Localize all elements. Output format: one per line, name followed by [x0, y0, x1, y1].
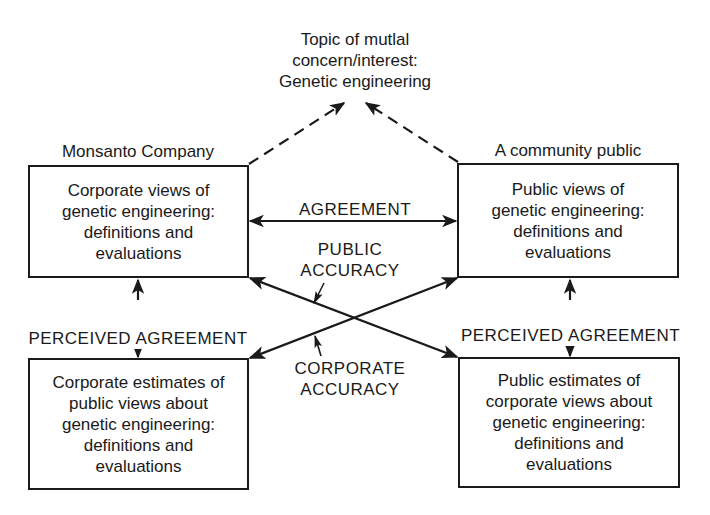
perceived-agreement-right-text: PERCEIVED AGREEMENT: [461, 326, 680, 345]
topic-label: Topic of mutlal concern/interest: Geneti…: [255, 29, 455, 92]
public-accuracy-label: PUBLIC ACCURACY: [275, 239, 425, 281]
perceived-agreement-left-label: PERCEIVED AGREEMENT: [18, 307, 258, 349]
corporate-estimates-box: Corporate estimates of public views abou…: [28, 358, 249, 490]
perceived-agreement-left-text: PERCEIVED AGREEMENT: [28, 329, 247, 348]
dashed-arrow-right-to-topic: [366, 103, 458, 162]
corporate-views-text: Corporate views of genetic engineering: …: [62, 180, 215, 264]
corporate-accuracy-pointer: [315, 336, 321, 356]
community-public-label: A community public: [458, 140, 678, 161]
agreement-label: AGREEMENT: [280, 199, 430, 220]
monsanto-company-label: Monsanto Company: [28, 141, 248, 162]
public-views-box: Public views of genetic engineering: def…: [457, 163, 679, 278]
public-estimates-text: Public estimates of corporate views abou…: [486, 370, 652, 475]
public-estimates-box: Public estimates of corporate views abou…: [458, 357, 680, 488]
public-views-text: Public views of genetic engineering: def…: [491, 179, 644, 263]
perceived-agreement-right-label: PERCEIVED AGREEMENT: [448, 304, 693, 346]
public-accuracy-pointer: [314, 283, 324, 303]
corporate-accuracy-label: CORPORATE ACCURACY: [270, 358, 430, 400]
corporate-estimates-text: Corporate estimates of public views abou…: [53, 372, 225, 477]
corporate-views-box: Corporate views of genetic engineering: …: [28, 165, 249, 278]
dashed-arrow-left-to-topic: [249, 103, 344, 164]
